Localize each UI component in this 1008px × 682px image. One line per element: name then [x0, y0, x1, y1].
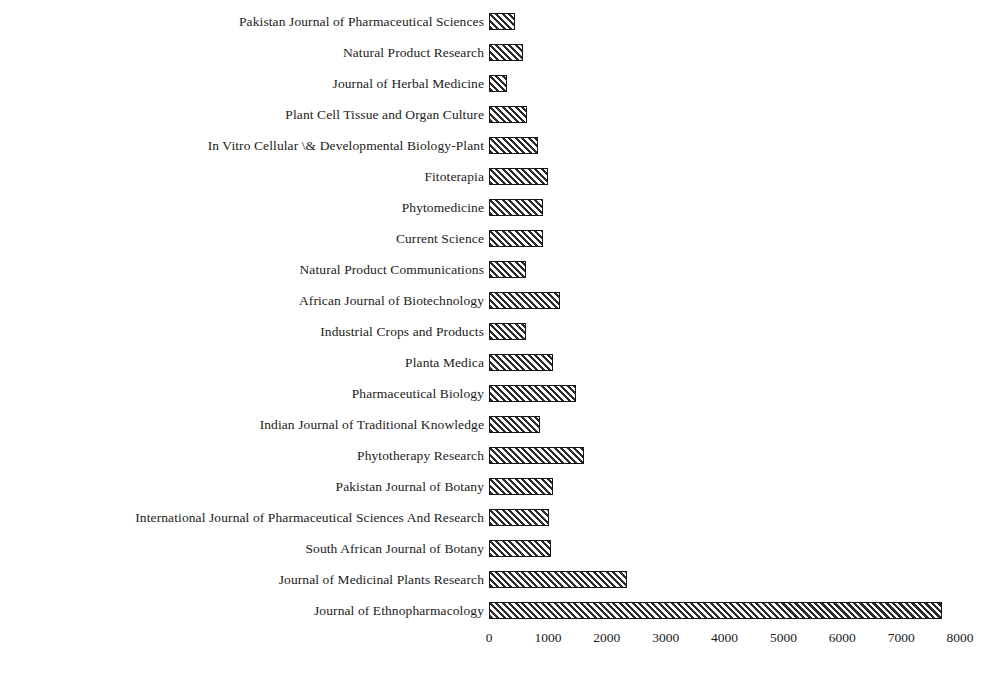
chart-row: African Journal of Biotechnology [0, 285, 1008, 316]
bar [489, 106, 527, 123]
bar [489, 261, 526, 278]
category-label: In Vitro Cellular \& Developmental Biolo… [208, 130, 484, 161]
category-label: Planta Medica [405, 347, 484, 378]
x-axis: 010002000300040005000600070008000 [0, 628, 1008, 652]
chart-row: Current Science [0, 223, 1008, 254]
x-tick-label: 1000 [534, 628, 561, 648]
x-tick-label: 3000 [652, 628, 679, 648]
category-label: International Journal of Pharmaceutical … [135, 502, 484, 533]
x-tick-label: 4000 [711, 628, 738, 648]
bar [489, 75, 507, 92]
bar [489, 416, 540, 433]
category-label: South African Journal of Botany [305, 533, 484, 564]
category-label: Phytomedicine [402, 192, 484, 223]
bar [489, 540, 551, 557]
chart-row: South African Journal of Botany [0, 533, 1008, 564]
category-label: Journal of Medicinal Plants Research [279, 564, 484, 595]
bar [489, 354, 553, 371]
category-label: Journal of Herbal Medicine [333, 68, 484, 99]
bar [489, 385, 576, 402]
category-label: Plant Cell Tissue and Organ Culture [285, 99, 484, 130]
bar [489, 323, 526, 340]
chart-row: Journal of Herbal Medicine [0, 68, 1008, 99]
bar [489, 13, 515, 30]
chart-row: Industrial Crops and Products [0, 316, 1008, 347]
chart-row: Pakistan Journal of Botany [0, 471, 1008, 502]
bar [489, 292, 560, 309]
chart-row: Fitoterapia [0, 161, 1008, 192]
category-label: Indian Journal of Traditional Knowledge [260, 409, 484, 440]
category-label: Natural Product Communications [300, 254, 484, 285]
category-label: Pharmaceutical Biology [352, 378, 484, 409]
bar [489, 199, 543, 216]
chart-row: Natural Product Communications [0, 254, 1008, 285]
chart-row: Phytotherapy Research [0, 440, 1008, 471]
category-label: Pakistan Journal of Pharmaceutical Scien… [239, 6, 484, 37]
chart-row: Planta Medica [0, 347, 1008, 378]
category-label: Pakistan Journal of Botany [336, 471, 484, 502]
chart-row: Journal of Ethnopharmacology [0, 595, 1008, 626]
chart-row: Journal of Medicinal Plants Research [0, 564, 1008, 595]
bar [489, 602, 942, 619]
category-label: Phytotherapy Research [357, 440, 484, 471]
chart-row: Phytomedicine [0, 192, 1008, 223]
chart-row: Indian Journal of Traditional Knowledge [0, 409, 1008, 440]
bar-chart: Pakistan Journal of Pharmaceutical Scien… [0, 0, 1008, 682]
category-label: African Journal of Biotechnology [299, 285, 484, 316]
x-tick-label: 5000 [770, 628, 797, 648]
category-label: Current Science [396, 223, 484, 254]
chart-row: In Vitro Cellular \& Developmental Biolo… [0, 130, 1008, 161]
chart-row: Pakistan Journal of Pharmaceutical Scien… [0, 6, 1008, 37]
chart-row: Plant Cell Tissue and Organ Culture [0, 99, 1008, 130]
bar [489, 137, 538, 154]
bar [489, 478, 553, 495]
bar [489, 168, 548, 185]
chart-row: Natural Product Research [0, 37, 1008, 68]
category-label: Industrial Crops and Products [320, 316, 484, 347]
x-tick-label: 7000 [888, 628, 915, 648]
bar [489, 509, 549, 526]
chart-row: Pharmaceutical Biology [0, 378, 1008, 409]
bar [489, 44, 523, 61]
category-label: Fitoterapia [424, 161, 484, 192]
x-tick-label: 8000 [947, 628, 974, 648]
chart-row: International Journal of Pharmaceutical … [0, 502, 1008, 533]
bar [489, 571, 627, 588]
bar [489, 230, 543, 247]
bar [489, 447, 584, 464]
x-tick-label: 0 [486, 628, 493, 648]
category-label: Natural Product Research [343, 37, 484, 68]
category-label: Journal of Ethnopharmacology [314, 595, 484, 626]
x-tick-label: 2000 [593, 628, 620, 648]
x-tick-label: 6000 [829, 628, 856, 648]
